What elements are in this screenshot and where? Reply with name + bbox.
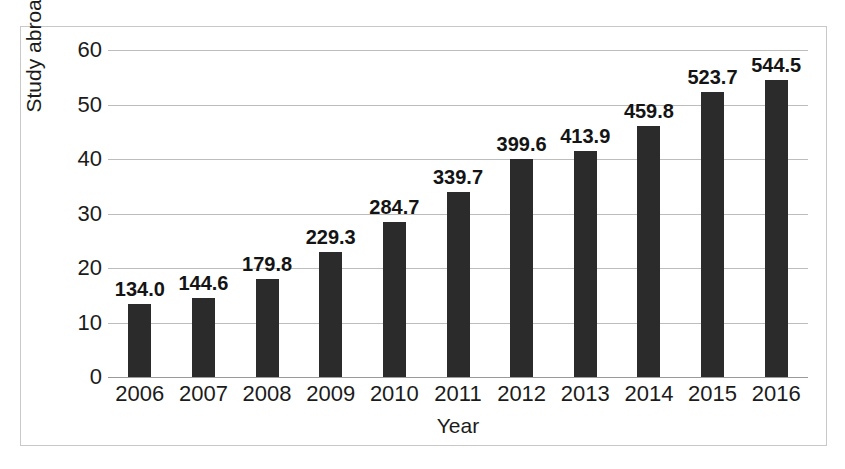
value-label-2009: 229.3 [296,227,366,247]
x-tick-label-2012: 2012 [487,383,557,405]
y-tick-label-0: 0 [56,366,102,388]
x-tick-label-2013: 2013 [550,383,620,405]
bar-2006[interactable] [128,304,151,377]
x-tick-label-2016: 2016 [741,383,811,405]
x-tick-label-2010: 2010 [359,383,429,405]
value-label-2007: 144.6 [168,273,238,293]
x-tick-label-2006: 2006 [105,383,175,405]
bar-2011[interactable] [447,192,470,377]
x-tick-label-2011: 2011 [423,383,493,405]
value-label-2011: 339.7 [423,167,493,187]
x-axis-tick-label-group: 2006200720082009201020112012201320142015… [108,383,808,413]
value-label-2006: 134.0 [105,279,175,299]
y-tick-label-50: 50 [56,94,102,116]
bar-2016[interactable] [765,80,788,377]
value-label-2015: 523.7 [678,67,748,87]
bar-2015[interactable] [701,92,724,377]
x-tick-label-2015: 2015 [678,383,748,405]
y-tick-label-10: 10 [56,312,102,334]
bar-2014[interactable] [637,126,660,377]
x-tick-label-2008: 2008 [232,383,302,405]
plot-area: 134.0144.6179.8229.3284.7339.7399.6413.9… [108,50,808,377]
y-axis-title: Study abroad [22,0,52,155]
value-label-2012: 399.6 [487,134,557,154]
bar-2008[interactable] [256,279,279,377]
x-tick-label-2009: 2009 [296,383,366,405]
x-tick-label-2007: 2007 [168,383,238,405]
bar-2009[interactable] [319,252,342,377]
y-tick-label-30: 30 [56,203,102,225]
value-label-2014: 459.8 [614,101,684,121]
value-label-2010: 284.7 [359,197,429,217]
gridline-0 [108,377,808,378]
x-tick-label-2014: 2014 [614,383,684,405]
y-tick-label-60: 60 [56,39,102,61]
y-tick-label-20: 20 [56,257,102,279]
value-label-2008: 179.8 [232,254,302,274]
gridline-60 [108,50,808,51]
bar-2010[interactable] [383,222,406,377]
value-label-2016: 544.5 [741,55,811,75]
chart-figure: Study abroad 0102030405060 134.0144.6179… [0,0,845,469]
value-label-2013: 413.9 [550,126,620,146]
y-axis-tick-label-group: 0102030405060 [50,50,102,377]
bar-2013[interactable] [574,151,597,377]
y-tick-label-40: 40 [56,148,102,170]
x-axis-title: Year [108,414,808,438]
bar-2007[interactable] [192,298,215,377]
bar-2012[interactable] [510,159,533,377]
